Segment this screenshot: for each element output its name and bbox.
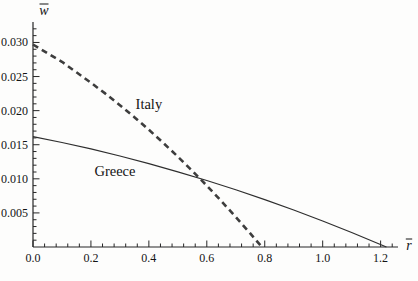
y-axis-label: w [39,3,49,18]
italy-curve [33,45,262,248]
italy-label: Italy [136,96,163,112]
tick-labels: 0.00.20.40.60.81.01.20.0050.0100.0150.02… [1,35,388,264]
x-tick-label: 1.0 [315,251,330,265]
y-tick-label: 0.020 [1,104,28,118]
figure-page: 0.00.20.40.60.81.01.20.0050.0100.0150.02… [0,0,418,281]
x-axis-label: r [406,238,412,253]
y-tick-label: 0.015 [1,138,28,152]
y-tick-label: 0.005 [1,206,28,220]
x-tick-label: 0.4 [141,251,156,265]
y-tick-label: 0.010 [1,172,28,186]
y-axis-label-text: w [39,3,49,18]
wage-profit-frontier-chart: 0.00.20.40.60.81.01.20.0050.0100.0150.02… [0,0,418,281]
greece-curve [33,137,386,247]
x-axis-label-text: r [406,238,412,253]
y-tick-label: 0.030 [1,35,28,49]
x-tick-label: 1.2 [373,251,388,265]
axes [33,22,398,247]
x-tick-label: 0.0 [26,251,41,265]
x-tick-label: 0.8 [257,251,272,265]
x-tick-label: 0.2 [83,251,98,265]
y-tick-label: 0.025 [1,70,28,84]
tick-marks [33,29,392,247]
x-tick-label: 0.6 [199,251,214,265]
greece-label: Greece [94,163,135,179]
